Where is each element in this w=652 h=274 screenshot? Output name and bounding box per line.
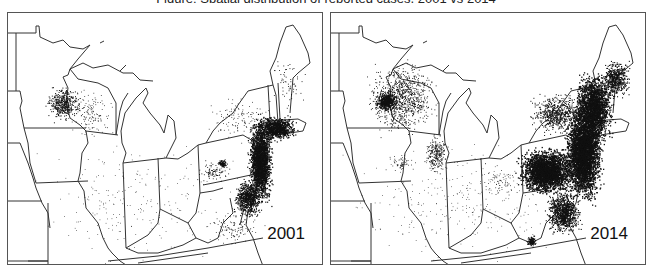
caption-text: Figure: Spatial distribution of reported… (156, 0, 496, 3)
figure-caption-cropped: Figure: Spatial distribution of reported… (0, 0, 652, 3)
map-panel-2001: 2001 (7, 12, 323, 265)
case-dots (343, 59, 631, 262)
year-label: 2001 (267, 224, 305, 244)
map-panel-2014: 2014 (330, 12, 646, 265)
year-label: 2014 (590, 224, 628, 244)
case-dots (36, 61, 306, 264)
